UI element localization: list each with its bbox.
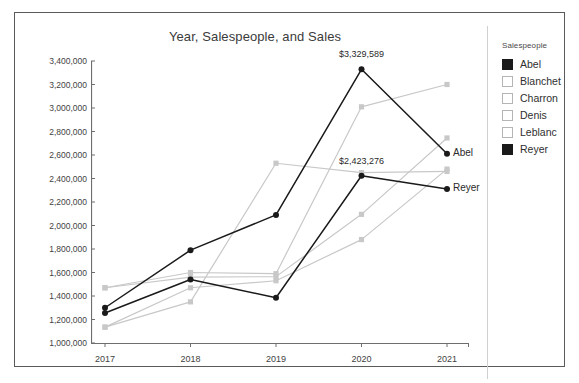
series-reyer: [102, 173, 450, 316]
series-line: [105, 176, 447, 313]
x-axis-tick-label: 2020: [351, 354, 371, 364]
x-axis-tick-label: 2019: [266, 354, 286, 364]
data-point: [444, 186, 450, 192]
legend-swatch-icon: [502, 59, 513, 70]
plot-area: [91, 55, 471, 349]
data-point: [273, 278, 278, 283]
legend-swatch-icon: [502, 76, 513, 87]
series-end-label: Reyer: [453, 182, 480, 193]
legend-item-label: Abel: [520, 59, 541, 70]
data-point: [359, 66, 365, 72]
data-point: [188, 277, 194, 283]
data-point: [359, 237, 364, 242]
data-point: [444, 82, 449, 87]
data-point: [359, 104, 364, 109]
series-blanchet: [102, 82, 449, 290]
y-axis-tick-label: 2,000,000: [49, 221, 87, 231]
y-axis-tick-label: 1,000,000: [49, 338, 87, 348]
data-point: [444, 135, 449, 140]
y-axis-tick-label: 2,600,000: [49, 150, 87, 160]
data-point: [102, 325, 107, 330]
y-axis: 3,400,0003,200,0003,000,0002,800,0002,60…: [15, 13, 87, 383]
series-leblanc: [102, 167, 449, 330]
legend-item-label: Leblanc: [520, 127, 557, 138]
legend-item-label: Denis: [520, 110, 547, 121]
legend: Salespeople AbelBlanchetCharronDenisLebl…: [502, 41, 579, 158]
data-label: $3,329,589: [339, 49, 384, 59]
y-axis-tick-label: 2,800,000: [49, 127, 87, 137]
legend-swatch-icon: [502, 110, 513, 121]
data-point: [102, 285, 107, 290]
data-point: [273, 295, 279, 301]
x-axis: 20172018201920202021: [15, 354, 485, 370]
data-point: [188, 285, 193, 290]
data-point: [273, 212, 279, 218]
series-line: [105, 169, 447, 327]
y-axis-tick-label: 2,400,000: [49, 174, 87, 184]
series-line: [105, 85, 447, 288]
y-axis-tick-label: 1,600,000: [49, 268, 87, 278]
legend-item-charron[interactable]: Charron: [502, 90, 579, 107]
x-axis-tick-label: 2021: [437, 354, 457, 364]
legend-item-denis[interactable]: Denis: [502, 107, 579, 124]
data-point: [188, 247, 194, 253]
data-point: [359, 212, 364, 217]
series-line: [105, 163, 447, 327]
x-axis-tick-label: 2017: [95, 354, 115, 364]
legend-item-label: Charron: [520, 93, 558, 104]
x-axis-tick-label: 2018: [180, 354, 200, 364]
legend-item-reyer[interactable]: Reyer: [502, 141, 579, 158]
legend-swatch-icon: [502, 93, 513, 104]
legend-item-label: Reyer: [520, 144, 548, 155]
chart-lines: [91, 55, 471, 349]
legend-items: AbelBlanchetCharronDenisLeblancReyer: [502, 56, 579, 158]
y-axis-tick-label: 2,200,000: [49, 197, 87, 207]
data-point: [444, 167, 449, 172]
legend-item-blanchet[interactable]: Blanchet: [502, 73, 579, 90]
data-point: [273, 161, 278, 166]
chart-title: Year, Salespeople, and Sales: [55, 29, 455, 44]
data-point: [102, 305, 108, 311]
y-axis-tick-label: 1,800,000: [49, 244, 87, 254]
legend-swatch-icon: [502, 144, 513, 155]
series-end-label: Abel: [453, 147, 473, 158]
y-axis-tick-label: 3,400,000: [49, 56, 87, 66]
legend-divider: [487, 26, 488, 379]
legend-item-leblanc[interactable]: Leblanc: [502, 124, 579, 141]
legend-title: Salespeople: [502, 41, 579, 50]
legend-item-abel[interactable]: Abel: [502, 56, 579, 73]
data-point: [359, 173, 365, 179]
y-axis-tick-label: 1,400,000: [49, 291, 87, 301]
data-label: $2,423,276: [339, 156, 384, 166]
legend-item-label: Blanchet: [520, 76, 561, 87]
y-axis-tick-label: 3,000,000: [49, 103, 87, 113]
chart-frame: Year, Salespeople, and Sales 3,400,0003,…: [14, 12, 565, 367]
legend-swatch-icon: [502, 127, 513, 138]
y-axis-tick-label: 1,200,000: [49, 315, 87, 325]
data-point: [102, 310, 108, 316]
data-point: [188, 270, 193, 275]
y-axis-tick-label: 3,200,000: [49, 80, 87, 90]
data-point: [444, 151, 450, 157]
data-point: [188, 299, 193, 304]
